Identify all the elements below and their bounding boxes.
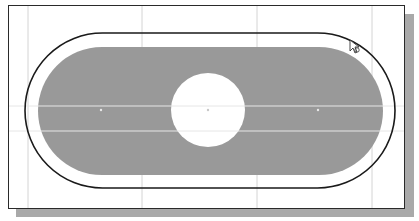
- sketch-canvas[interactable]: [0, 0, 419, 221]
- sketch-point[interactable]: [207, 109, 209, 111]
- sketch-point[interactable]: [100, 109, 102, 111]
- sketch-point[interactable]: [317, 109, 319, 111]
